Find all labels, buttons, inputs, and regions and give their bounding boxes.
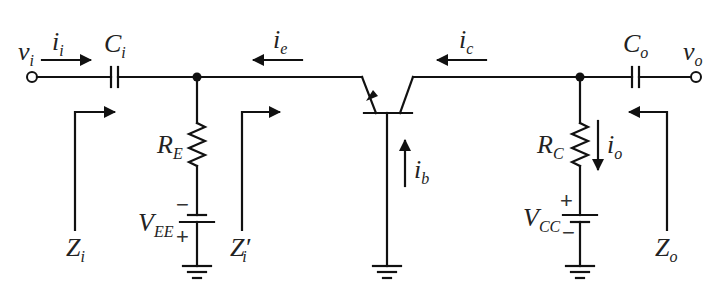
input-current-label: ii bbox=[52, 27, 64, 59]
input-impedance-label: Zi bbox=[66, 233, 85, 265]
circuit-diagram: vi ii Ci ie ic Co vo RE VEE − + ib RC io… bbox=[0, 0, 720, 298]
collector-supply-minus: − bbox=[562, 220, 575, 245]
output-capacitor-label: Co bbox=[623, 29, 648, 61]
emitter-resistor bbox=[189, 77, 205, 215]
zo-bracket-arrow-icon bbox=[630, 112, 667, 230]
collector-supply-plus: + bbox=[560, 188, 573, 213]
ground-icon-collector bbox=[566, 266, 594, 278]
output-voltage-label: vo bbox=[683, 37, 703, 69]
input-capacitor-label: Ci bbox=[104, 29, 126, 61]
emitter-supply-label: VEE bbox=[138, 208, 174, 240]
collector-resistor-label: RC bbox=[536, 130, 564, 162]
emitter-current-label: ie bbox=[273, 25, 287, 57]
output-terminal bbox=[691, 72, 701, 82]
collector-current-label: ic bbox=[459, 25, 473, 57]
ground-icon-base bbox=[373, 266, 401, 278]
input-voltage-label: vi bbox=[18, 37, 34, 69]
ground-icon-emitter bbox=[183, 266, 211, 278]
output-current-label: io bbox=[607, 130, 622, 162]
zi-prime-bracket-arrow-icon bbox=[242, 112, 279, 230]
collector-resistor bbox=[572, 77, 588, 215]
zi-bracket-arrow-icon bbox=[75, 112, 114, 230]
input-impedance-prime-label: Z′i bbox=[230, 233, 250, 265]
emitter-supply-minus: − bbox=[176, 192, 189, 217]
base-current-label: ib bbox=[414, 155, 429, 187]
input-terminal bbox=[27, 72, 37, 82]
emitter-resistor-label: RE bbox=[156, 130, 183, 162]
output-impedance-label: Zo bbox=[655, 233, 677, 265]
emitter-supply-plus: + bbox=[176, 224, 189, 249]
collector-supply-label: VCC bbox=[523, 203, 561, 235]
